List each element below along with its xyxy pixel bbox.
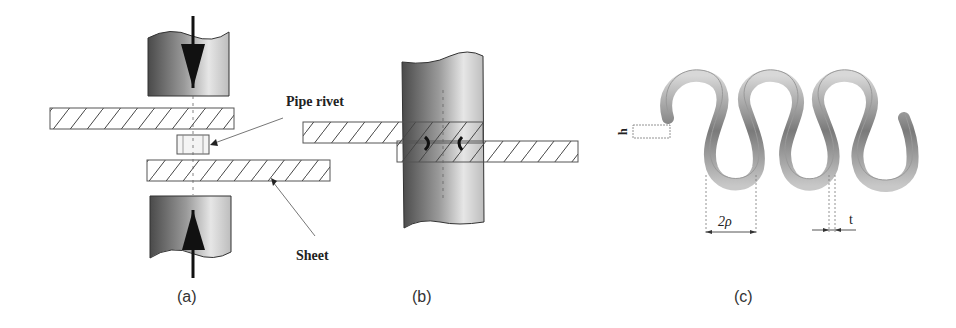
caption-a: (a): [177, 288, 197, 305]
dim-t: t: [849, 212, 853, 227]
caption-b: (b): [412, 288, 432, 305]
panel-b: (b): [303, 52, 578, 305]
label-sheet: Sheet: [296, 248, 329, 263]
lower-sheet: [147, 160, 330, 181]
top-sheet: [303, 122, 483, 143]
dim-2rho: 2ρ: [718, 214, 732, 229]
figure-canvas: Pipe rivet Sheet (a) (b) h 2ρ: [0, 0, 956, 328]
upper-sheet: [50, 108, 234, 129]
panel-c: h 2ρ t (c): [616, 70, 913, 305]
caption-c: (c): [734, 288, 753, 305]
panel-a: Pipe rivet Sheet (a): [50, 16, 344, 305]
bottom-sheet: [397, 141, 578, 162]
pipe-rivet: [177, 135, 209, 154]
label-pipe-rivet: Pipe rivet: [286, 94, 344, 109]
dim-h: h: [616, 128, 630, 135]
serpentine-strip: [666, 76, 912, 186]
